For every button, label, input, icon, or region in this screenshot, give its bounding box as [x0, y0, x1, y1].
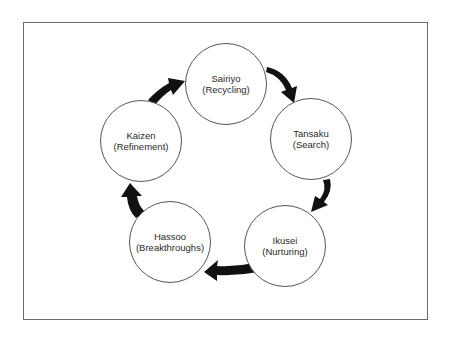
node-sublabel: (Nurturing): [262, 246, 307, 257]
node-sublabel: (Search): [293, 139, 329, 150]
node-sairiyo: Sairiyo (Recycling): [185, 43, 267, 125]
arrow-kaizen-to-sairiyo: [148, 78, 185, 105]
node-sublabel: (Breakthroughs): [136, 242, 204, 253]
node-kaizen: Kaizen (Refinement): [100, 100, 182, 182]
node-label: Tansaku: [293, 128, 328, 139]
arrow-tansaku-to-ikusei: [311, 179, 331, 212]
node-label: Ikusei: [273, 235, 298, 246]
node-sublabel: (Refinement): [114, 141, 169, 152]
node-label: Hassoo: [154, 231, 186, 242]
arrow-sairiyo-to-tansaku: [266, 67, 297, 103]
node-sublabel: (Recycling): [202, 84, 250, 95]
diagram-stage: Sairiyo (Recycling) Tansaku (Search) Iku…: [0, 0, 455, 340]
node-tansaku: Tansaku (Search): [270, 98, 352, 180]
node-ikusei: Ikusei (Nurturing): [244, 205, 326, 287]
node-label: Sairiyo: [211, 73, 240, 84]
node-label: Kaizen: [126, 130, 155, 141]
node-hassoo: Hassoo (Breakthroughs): [129, 201, 211, 283]
